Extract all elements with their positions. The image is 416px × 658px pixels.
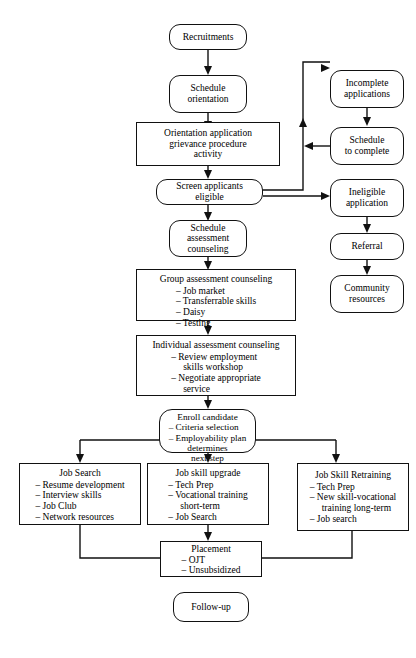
list-item: – Network resources bbox=[35, 512, 124, 523]
node-label-line2: eligible bbox=[195, 192, 224, 203]
list-item: – Tech Prep bbox=[168, 480, 247, 491]
node-ineligible-application[interactable]: Ineligible application bbox=[330, 179, 404, 217]
node-schedule-to-complete[interactable]: Schedule to complete bbox=[330, 127, 404, 165]
list-item: – New skill-vocational training long-ter… bbox=[310, 492, 397, 513]
node-tail-line2: next step bbox=[191, 453, 224, 463]
node-label-line1: Ineligible bbox=[349, 187, 385, 198]
node-referral[interactable]: Referral bbox=[330, 233, 404, 260]
list-item: – Daisy bbox=[176, 307, 256, 318]
node-orientation-activity[interactable]: Orientation application grievance proced… bbox=[136, 122, 280, 166]
node-label-line1: Schedule bbox=[350, 135, 385, 146]
node-enroll-candidate[interactable]: Enroll candidate – Criteria selection – … bbox=[159, 409, 256, 453]
list-item: – Review employment skills workshop bbox=[171, 352, 261, 373]
list-item: – Employability plan bbox=[169, 433, 247, 443]
node-label-line3: counseling bbox=[187, 244, 228, 255]
list-item: – Unsubsidized bbox=[182, 565, 241, 576]
list-item: – Job market bbox=[176, 286, 256, 297]
node-title: Job Skill Retraining bbox=[315, 470, 391, 481]
node-label-line2: application bbox=[346, 198, 388, 209]
list-item: – Testing bbox=[176, 318, 256, 329]
node-bullet-list: – Criteria selection – Employability pla… bbox=[169, 422, 247, 443]
node-label-line3: activity bbox=[194, 149, 223, 160]
node-bullet-list: – Resume development – Interview skills … bbox=[35, 480, 124, 523]
list-item: – Job Search bbox=[168, 512, 247, 523]
list-item: – Transferrable skills bbox=[176, 296, 256, 307]
node-job-search[interactable]: Job Search – Resume development – Interv… bbox=[19, 463, 141, 525]
list-item: – Job Club bbox=[35, 501, 124, 512]
node-schedule-orientation[interactable]: Schedule orientation bbox=[169, 75, 247, 113]
node-recruitments[interactable]: Recruitments bbox=[169, 24, 247, 50]
node-bullet-list: – Job market – Transferrable skills – Da… bbox=[176, 286, 256, 329]
node-label-line1: Schedule bbox=[191, 83, 226, 94]
node-individual-assessment[interactable]: Individual assessment counseling – Revie… bbox=[136, 335, 296, 396]
node-label-line1: Orientation application bbox=[164, 128, 252, 139]
list-item: – Job search bbox=[310, 514, 397, 525]
node-bullet-list: – OJT – Unsubsidized bbox=[182, 555, 241, 576]
node-title: Group assessment counseling bbox=[160, 274, 272, 285]
node-label: Referral bbox=[351, 241, 382, 252]
node-title: Job skill upgrade bbox=[176, 468, 241, 479]
list-item: – Vocational training short-term bbox=[168, 490, 247, 511]
list-item: – Tech Prep bbox=[310, 482, 397, 493]
node-label-line2: assessment bbox=[187, 233, 229, 244]
node-community-resources[interactable]: Community resources bbox=[330, 275, 404, 313]
node-label-line2: orientation bbox=[187, 94, 228, 105]
node-label-line2: grievance procedure bbox=[169, 139, 246, 150]
node-label-line2: applications bbox=[344, 89, 390, 100]
node-job-skill-retraining[interactable]: Job Skill Retraining – Tech Prep – New s… bbox=[297, 463, 409, 531]
list-item: – Criteria selection bbox=[169, 422, 247, 432]
node-title: Enroll candidate bbox=[177, 412, 237, 422]
node-title: Placement bbox=[191, 544, 231, 555]
node-bullet-list: – Tech Prep – Vocational training short-… bbox=[168, 480, 247, 523]
node-incomplete-applications[interactable]: Incomplete applications bbox=[330, 70, 404, 108]
list-item: – Negotiate appropriate service bbox=[171, 373, 261, 394]
node-job-skill-upgrade[interactable]: Job skill upgrade – Tech Prep – Vocation… bbox=[147, 463, 269, 525]
list-item: – Resume development bbox=[35, 480, 124, 491]
node-label-line1: Incomplete bbox=[346, 78, 389, 89]
node-follow-up[interactable]: Follow-up bbox=[173, 592, 249, 622]
node-title: Job Search bbox=[59, 468, 100, 479]
node-label-line2: resources bbox=[349, 294, 385, 305]
node-label: Follow-up bbox=[191, 602, 231, 613]
node-tail-line1: determines bbox=[187, 443, 227, 453]
node-label-line2: to complete bbox=[345, 146, 390, 157]
node-screen-applicants[interactable]: Screen applicants eligible bbox=[156, 179, 263, 205]
node-placement[interactable]: Placement – OJT – Unsubsidized bbox=[160, 541, 262, 577]
list-item: – Interview skills bbox=[35, 490, 124, 501]
node-label-line1: Community bbox=[344, 283, 389, 294]
node-bullet-list: – Tech Prep – New skill-vocational train… bbox=[310, 482, 397, 525]
node-label-line1: Schedule bbox=[191, 223, 226, 234]
node-bullet-list: – Review employment skills workshop – Ne… bbox=[171, 352, 261, 395]
node-label-line1: Screen applicants bbox=[176, 181, 243, 192]
node-group-assessment[interactable]: Group assessment counseling – Job market… bbox=[136, 269, 296, 321]
node-schedule-assessment[interactable]: Schedule assessment counseling bbox=[169, 220, 247, 257]
node-label: Recruitments bbox=[183, 32, 234, 43]
node-title: Individual assessment counseling bbox=[152, 340, 279, 351]
list-item: – OJT bbox=[182, 555, 241, 566]
